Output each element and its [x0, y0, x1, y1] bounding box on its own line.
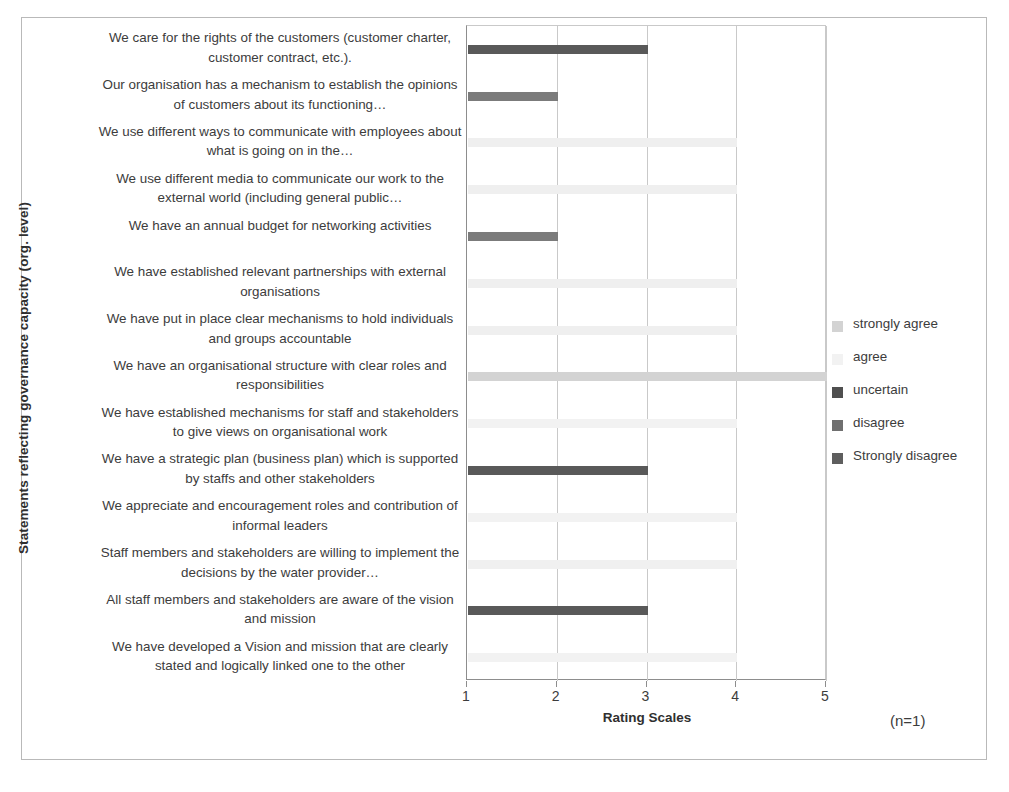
bar[interactable] [468, 513, 737, 522]
bar[interactable] [468, 326, 737, 335]
category-label: We use different media to communicate ou… [96, 169, 464, 208]
category-label: All staff members and stakeholders are a… [96, 590, 464, 629]
bar[interactable] [468, 232, 558, 241]
category-label: Our organisation has a mechanism to esta… [96, 75, 464, 114]
plot-area [466, 25, 826, 680]
gridline [736, 26, 737, 681]
plot-frame [466, 25, 826, 680]
gridline [826, 26, 827, 681]
category-label: We have established mechanisms for staff… [96, 403, 464, 442]
legend-label: disagree [853, 415, 904, 430]
x-tick-mark [646, 681, 647, 687]
bar[interactable] [468, 606, 648, 615]
legend-item[interactable]: strongly agree [832, 314, 982, 347]
bar[interactable] [468, 138, 737, 147]
legend-swatch-icon [832, 420, 843, 431]
x-tick-mark [825, 681, 826, 687]
x-axis-ticks: 12345 [466, 681, 832, 707]
legend-swatch-icon [832, 321, 843, 332]
bar[interactable] [468, 279, 737, 288]
category-label: We have an organisational structure with… [96, 356, 464, 395]
x-tick-label: 5 [810, 688, 840, 704]
legend-label: agree [853, 349, 887, 364]
category-label: We have established relevant partnership… [96, 262, 464, 301]
x-tick-mark [735, 681, 736, 687]
category-label: We have developed a Vision and mission t… [96, 637, 464, 676]
legend-label: Strongly disagree [853, 448, 957, 463]
bar[interactable] [468, 466, 648, 475]
legend-item[interactable]: disagree [832, 413, 982, 446]
x-tick-label: 2 [541, 688, 571, 704]
category-label: Staff members and stakeholders are willi… [96, 543, 464, 582]
category-label: We have an annual budget for networking … [96, 216, 464, 236]
legend-swatch-icon [832, 453, 843, 464]
legend-label: uncertain [853, 382, 908, 397]
category-label: We care for the rights of the customers … [96, 28, 464, 67]
category-label: We have a strategic plan (business plan)… [96, 449, 464, 488]
x-tick-mark [556, 681, 557, 687]
bar[interactable] [468, 185, 737, 194]
x-tick-label: 4 [720, 688, 750, 704]
figure-frame: Statements reflecting governance capacit… [21, 17, 987, 760]
legend: strongly agreeagreeuncertaindisagreeStro… [832, 314, 982, 479]
x-axis-title: Rating Scales [466, 710, 828, 725]
category-label: We have put in place clear mechanisms to… [96, 309, 464, 348]
bar[interactable] [468, 45, 648, 54]
category-label-list: We care for the rights of the customers … [96, 25, 468, 680]
category-label: We appreciate and encouragement roles an… [96, 496, 464, 535]
legend-swatch-icon [832, 387, 843, 398]
gridline [557, 26, 558, 681]
y-axis-title-text: Statements reflecting governance capacit… [16, 138, 31, 618]
legend-label: strongly agree [853, 316, 938, 331]
legend-item[interactable]: agree [832, 347, 982, 380]
gridline [647, 26, 648, 681]
legend-item[interactable]: uncertain [832, 380, 982, 413]
y-axis-title: Statements reflecting governance capacit… [16, 0, 44, 138]
bar[interactable] [468, 372, 827, 381]
legend-item[interactable]: Strongly disagree [832, 446, 982, 479]
bar[interactable] [468, 560, 737, 569]
bar[interactable] [468, 653, 737, 662]
category-label: We use different ways to communicate wit… [96, 122, 464, 161]
x-tick-mark [466, 681, 467, 687]
bar[interactable] [468, 92, 558, 101]
x-tick-label: 1 [451, 688, 481, 704]
x-tick-label: 3 [631, 688, 661, 704]
sample-size-note: (n=1) [890, 712, 925, 729]
bar[interactable] [468, 419, 737, 428]
legend-swatch-icon [832, 354, 843, 365]
